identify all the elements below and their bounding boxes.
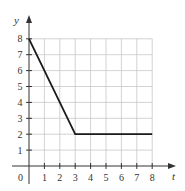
x-tick-label: 5	[104, 172, 109, 183]
y-tick-label: 1	[18, 145, 23, 156]
y-axis-label: y	[13, 14, 19, 26]
y-tick-label: 6	[18, 65, 23, 76]
axes	[12, 15, 176, 184]
x-tick-label: 7	[134, 172, 139, 183]
x-tick-label: 2	[57, 172, 62, 183]
y-tick-label: 7	[18, 49, 23, 60]
line-chart: 1234567812345678 y t 0	[0, 0, 185, 191]
origin-label: 0	[18, 172, 23, 183]
x-tick-label: 1	[42, 172, 47, 183]
x-axis-label: t	[172, 170, 176, 182]
x-tick-label: 4	[88, 172, 93, 183]
x-axis-arrow-icon	[168, 163, 176, 169]
x-tick-label: 3	[73, 172, 78, 183]
y-tick-label: 2	[18, 129, 23, 140]
y-tick-label: 3	[18, 113, 23, 124]
y-tick-label: 8	[18, 33, 23, 44]
y-tick-label: 5	[18, 81, 23, 92]
grid	[29, 39, 152, 166]
x-tick-label: 6	[119, 172, 124, 183]
y-axis-arrow-icon	[26, 15, 32, 23]
x-tick-label: 8	[150, 172, 155, 183]
y-tick-label: 4	[18, 97, 23, 108]
